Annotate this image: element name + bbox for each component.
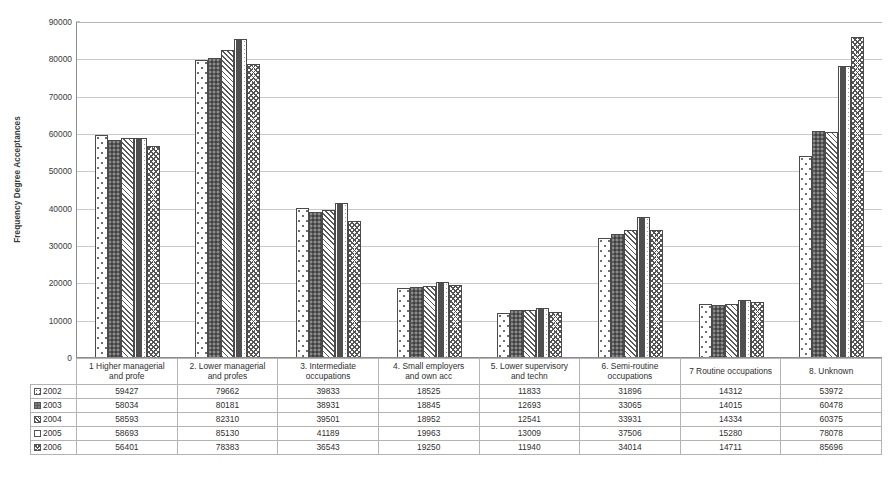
bar-2002-cat7 <box>699 304 712 357</box>
legend-swatch-icon-2003 <box>34 402 41 409</box>
table-cell-2002-col7: 14312 <box>680 385 781 399</box>
bar-2006-cat8 <box>851 37 864 357</box>
bar-group-1 <box>77 22 178 357</box>
bar-2003-cat8 <box>812 131 825 357</box>
y-axis-tick-50000: 50000 <box>49 166 72 176</box>
bar-2002-cat2 <box>195 60 208 357</box>
table-cell-2006-col2: 78383 <box>177 441 278 455</box>
table-column-header-3: 3. Intermediateoccupations <box>278 359 379 385</box>
bar-group-5 <box>480 22 581 357</box>
legend-label-2005: 2005 <box>43 428 62 438</box>
table-cell-2003-col7: 14015 <box>680 399 781 413</box>
bar-2004-cat2 <box>221 50 234 357</box>
bar-groups <box>77 22 882 357</box>
bar-2004-cat7 <box>725 304 738 358</box>
table-cell-2006-col6: 34014 <box>580 441 681 455</box>
legend-swatch-icon-2006 <box>34 444 41 451</box>
bar-2003-cat5 <box>510 310 523 357</box>
bar-2002-cat5 <box>497 313 510 357</box>
y-axis-label-text: Frequency Degree Acceptances <box>13 116 22 243</box>
table-cell-2002-col6: 31896 <box>580 385 681 399</box>
table-cell-2003-col5: 12693 <box>479 399 580 413</box>
data-table: 1 Higher managerialand profe2. Lower man… <box>30 358 882 455</box>
legend-item-2002[interactable]: 2002 <box>31 385 77 399</box>
table-row: 2005586938513041189199631300937506152807… <box>31 427 882 441</box>
bar-2006-cat6 <box>650 230 663 357</box>
table-row: 2003580348018138931188451269333065140156… <box>31 399 882 413</box>
bar-2002-cat4 <box>397 288 410 357</box>
bar-2006-cat2 <box>247 64 260 357</box>
table-row: 2002594277966239833185251183331896143125… <box>31 385 882 399</box>
table-column-header-6: 6. Semi-routineoccupations <box>580 359 681 385</box>
y-axis-tick-90000: 90000 <box>49 17 72 27</box>
table-cell-2004-col3: 39501 <box>278 413 379 427</box>
table-cell-2005-col5: 13009 <box>479 427 580 441</box>
table-cell-2005-col3: 41189 <box>278 427 379 441</box>
table-column-header-5: 5. Lower supervisoryand techn <box>479 359 580 385</box>
data-table-body: 2002594277966239833185251183331896143125… <box>31 385 882 455</box>
bar-2005-cat3 <box>335 203 348 357</box>
legend-swatch-icon-2004 <box>34 416 41 423</box>
bar-2004-cat4 <box>423 286 436 357</box>
table-row: 2004585938231039501189521254133931143346… <box>31 413 882 427</box>
table-cell-2002-col5: 11833 <box>479 385 580 399</box>
bar-group-8 <box>781 22 882 357</box>
table-cell-2004-col7: 14334 <box>680 413 781 427</box>
table-cell-2006-col5: 11940 <box>479 441 580 455</box>
bar-2005-cat8 <box>838 66 851 357</box>
table-cell-2002-col8: 53972 <box>781 385 882 399</box>
bar-2004-cat8 <box>825 132 838 357</box>
data-table-head: 1 Higher managerialand profe2. Lower man… <box>31 359 882 385</box>
bar-2004-cat6 <box>624 230 637 357</box>
bar-2006-cat4 <box>449 285 462 357</box>
bar-group-4 <box>379 22 480 357</box>
bar-2005-cat6 <box>637 217 650 357</box>
table-cell-2006-col4: 19250 <box>378 441 479 455</box>
bar-group-2 <box>178 22 279 357</box>
bar-2003-cat7 <box>712 305 725 357</box>
plot-canvas <box>76 22 882 358</box>
table-cell-2005-col1: 58693 <box>77 427 178 441</box>
bar-2005-cat1 <box>134 138 147 357</box>
table-cell-2006-col1: 56401 <box>77 441 178 455</box>
table-cell-2004-col8: 60375 <box>781 413 882 427</box>
bar-2006-cat5 <box>549 312 562 357</box>
table-cell-2006-col7: 14711 <box>680 441 781 455</box>
bar-2002-cat6 <box>598 238 611 357</box>
bar-2003-cat3 <box>309 212 322 357</box>
bar-2003-cat1 <box>108 140 121 357</box>
table-cell-2004-col4: 18952 <box>378 413 479 427</box>
legend-swatch-icon-2005 <box>34 430 41 437</box>
table-cell-2006-col8: 85696 <box>781 441 882 455</box>
bar-2006-cat7 <box>751 302 764 357</box>
bar-2004-cat3 <box>322 210 335 357</box>
bar-2005-cat4 <box>436 282 449 357</box>
bar-2005-cat7 <box>738 300 751 357</box>
y-axis-label: Frequency Degree Acceptances <box>6 0 28 358</box>
table-cell-2004-col2: 82310 <box>177 413 278 427</box>
legend-item-2005[interactable]: 2005 <box>31 427 77 441</box>
legend-item-2006[interactable]: 2006 <box>31 441 77 455</box>
table-cell-2004-col5: 12541 <box>479 413 580 427</box>
y-axis-tick-80000: 80000 <box>49 54 72 64</box>
table-cell-2002-col4: 18525 <box>378 385 479 399</box>
y-axis-tick-70000: 70000 <box>49 92 72 102</box>
legend-label-2006: 2006 <box>43 442 62 452</box>
legend-item-2003[interactable]: 2003 <box>31 399 77 413</box>
table-cell-2003-col8: 60478 <box>781 399 882 413</box>
table-cell-2004-col6: 33931 <box>580 413 681 427</box>
table-column-header-2: 2. Lower managerialand profes <box>177 359 278 385</box>
bar-2002-cat8 <box>799 156 812 357</box>
table-cell-2003-col4: 18845 <box>378 399 479 413</box>
table-cell-2003-col3: 38931 <box>278 399 379 413</box>
legend-item-2004[interactable]: 2004 <box>31 413 77 427</box>
table-column-header-8: 8. Unknown <box>781 359 882 385</box>
data-table-wrapper: 1 Higher managerialand profe2. Lower man… <box>30 358 882 455</box>
table-cell-2003-col2: 80181 <box>177 399 278 413</box>
legend-swatch-icon-2002 <box>34 388 41 395</box>
table-cell-2002-col1: 59427 <box>77 385 178 399</box>
chart-figure: Frequency Degree Acceptances 01000020000… <box>0 0 890 482</box>
table-cell-2003-col1: 58034 <box>77 399 178 413</box>
bar-2006-cat3 <box>348 221 361 357</box>
data-table-header-row: 1 Higher managerialand profe2. Lower man… <box>31 359 882 385</box>
